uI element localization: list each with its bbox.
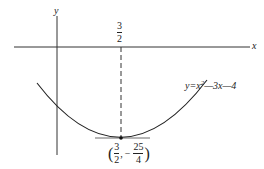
minus-sign: − (125, 148, 131, 159)
comma: , (120, 148, 123, 159)
fraction-denominator: 2 (117, 34, 122, 44)
fraction-numerator: 3 (117, 21, 122, 31)
fraction-denominator: 4 (136, 155, 141, 165)
fraction-denominator: 2 (114, 155, 119, 165)
y-axis-label: y (54, 6, 58, 16)
equation-suffix: —3x—4 (204, 80, 236, 91)
equation-prefix: y=x (185, 80, 201, 91)
close-paren: ) (144, 146, 149, 162)
equation-label: y=x2—3x—4 (185, 80, 236, 91)
vertex-y-fraction: 25 4 (133, 142, 143, 165)
symmetry-x-label: 3 2 (117, 21, 122, 44)
parabola-curve (37, 80, 207, 137)
vertex-point (119, 136, 123, 140)
fraction-numerator: 3 (114, 142, 119, 152)
open-paren: ( (108, 146, 113, 162)
vertex-x-fraction: 3 2 (114, 142, 119, 165)
x-axis-label: x (252, 41, 256, 51)
vertex-coordinate-label: ( 3 2 , − 25 4 ) (108, 142, 150, 165)
fraction-numerator: 25 (133, 142, 143, 152)
